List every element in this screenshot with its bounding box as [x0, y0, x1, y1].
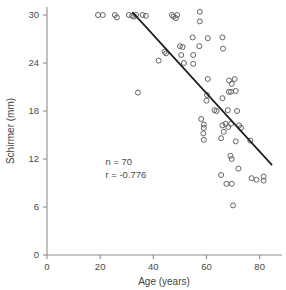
data-point: [199, 117, 204, 122]
data-point: [143, 13, 148, 18]
data-point: [197, 44, 202, 49]
data-point: [228, 153, 233, 158]
x-tick-label: 80: [254, 261, 265, 272]
data-point: [249, 176, 254, 181]
data-point: [235, 109, 240, 114]
data-point: [226, 125, 231, 130]
data-point: [190, 35, 195, 40]
x-tick-label: 0: [44, 261, 49, 272]
data-point: [197, 19, 202, 24]
annotation-sample-size: n = 70: [105, 156, 132, 167]
y-tick-label: 0: [34, 249, 39, 260]
data-point: [181, 61, 186, 66]
scatter-chart: 0612182430 020406080 n = 70 r = -0.776 A…: [0, 0, 286, 290]
data-point: [224, 181, 229, 186]
x-axis-title: Age (years): [138, 276, 190, 287]
data-point: [236, 166, 241, 171]
data-point: [220, 35, 225, 40]
y-tick-label: 30: [28, 9, 39, 20]
data-point: [219, 173, 224, 178]
y-tick-label: 18: [28, 105, 39, 116]
x-tick-label: 40: [148, 261, 159, 272]
data-point: [219, 136, 224, 141]
data-point: [205, 77, 210, 82]
data-point: [233, 89, 238, 94]
data-point: [233, 139, 238, 144]
data-point: [191, 53, 196, 58]
data-point: [156, 58, 161, 63]
data-point: [231, 203, 236, 208]
y-tick-label: 6: [34, 201, 39, 212]
y-tick-label: 24: [28, 57, 39, 68]
x-axis-ticks: 020406080: [44, 255, 265, 272]
axes: [47, 7, 282, 255]
y-axis-title: Schirmer (mm): [5, 98, 16, 164]
data-point: [229, 157, 234, 162]
y-axis-ticks: 0612182430: [28, 9, 47, 260]
data-point: [135, 90, 140, 95]
data-point: [201, 131, 206, 136]
data-point: [227, 78, 232, 83]
data-point: [221, 129, 226, 134]
data-point: [204, 98, 209, 103]
data-point: [254, 177, 259, 182]
data-point: [229, 181, 234, 186]
data-point: [220, 46, 225, 51]
data-point: [225, 108, 230, 113]
data-point: [191, 61, 196, 66]
x-tick-label: 20: [95, 261, 106, 272]
x-tick-label: 60: [201, 261, 212, 272]
data-point: [100, 13, 105, 18]
data-point: [197, 9, 202, 14]
data-point: [220, 96, 225, 101]
data-point: [96, 13, 101, 18]
annotation-correlation: r = -0.776: [105, 169, 146, 180]
data-point: [205, 36, 210, 41]
data-point: [201, 125, 206, 130]
data-point: [201, 137, 206, 142]
data-point: [179, 53, 184, 58]
data-point: [232, 77, 237, 82]
chart-canvas: 0612182430 020406080 n = 70 r = -0.776 A…: [0, 0, 286, 290]
y-tick-label: 12: [28, 153, 39, 164]
data-point: [229, 81, 234, 86]
